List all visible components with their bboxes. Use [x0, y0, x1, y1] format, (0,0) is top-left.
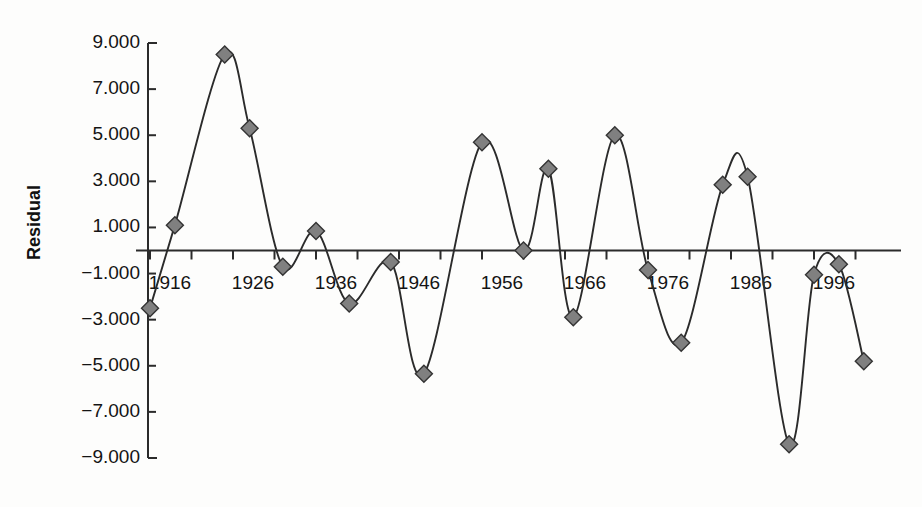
- data-point-marker: [382, 254, 399, 271]
- data-series-line: [150, 52, 864, 446]
- data-point-marker: [673, 334, 690, 351]
- data-point-marker: [806, 266, 823, 283]
- data-point-marker: [714, 176, 731, 193]
- data-point-marker: [241, 120, 258, 137]
- data-point-marker: [640, 262, 657, 279]
- data-point-marker: [166, 217, 183, 234]
- data-point-marker: [565, 309, 582, 326]
- data-point-marker: [855, 353, 872, 370]
- data-point-marker: [216, 46, 233, 63]
- data-point-marker: [415, 365, 432, 382]
- data-point-marker: [830, 256, 847, 273]
- residual-chart: Residual 9.0007.0005.0003.0001.000−1.000…: [0, 0, 922, 507]
- plot-area: [0, 0, 922, 507]
- data-point-marker: [274, 258, 291, 275]
- data-point-marker: [142, 300, 159, 317]
- data-point-marker: [308, 222, 325, 239]
- data-point-marker: [739, 168, 756, 185]
- data-point-marker: [474, 134, 491, 151]
